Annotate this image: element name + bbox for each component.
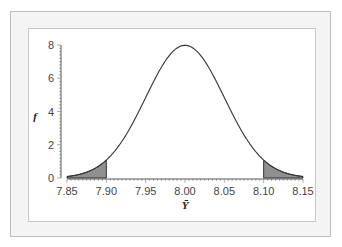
- y-tick-label: 4: [48, 106, 54, 118]
- x-tick-label: 7.85: [56, 185, 77, 197]
- x-tick-label: 7.95: [135, 185, 156, 197]
- x-tick-label: 8.15: [292, 185, 313, 197]
- x-axis-label: Ȳ: [182, 199, 190, 211]
- y-tick-label: 2: [48, 139, 54, 151]
- x-axis: 7.857.907.958.008.058.108.15: [56, 179, 313, 197]
- y-tick-label: 0: [48, 172, 54, 184]
- y-tick-label: 8: [48, 39, 54, 51]
- y-axis-label: f: [33, 110, 38, 122]
- normal-distribution-chart: 02468 7.857.907.958.008.058.108.15 f Ȳ: [0, 0, 342, 247]
- y-axis: 02468: [48, 39, 61, 184]
- x-tick-label: 8.05: [214, 185, 235, 197]
- x-tick-label: 8.00: [174, 185, 195, 197]
- y-tick-label: 6: [48, 72, 54, 84]
- x-tick-label: 8.10: [253, 185, 274, 197]
- density-curve: [67, 45, 303, 176]
- x-tick-label: 7.90: [96, 185, 117, 197]
